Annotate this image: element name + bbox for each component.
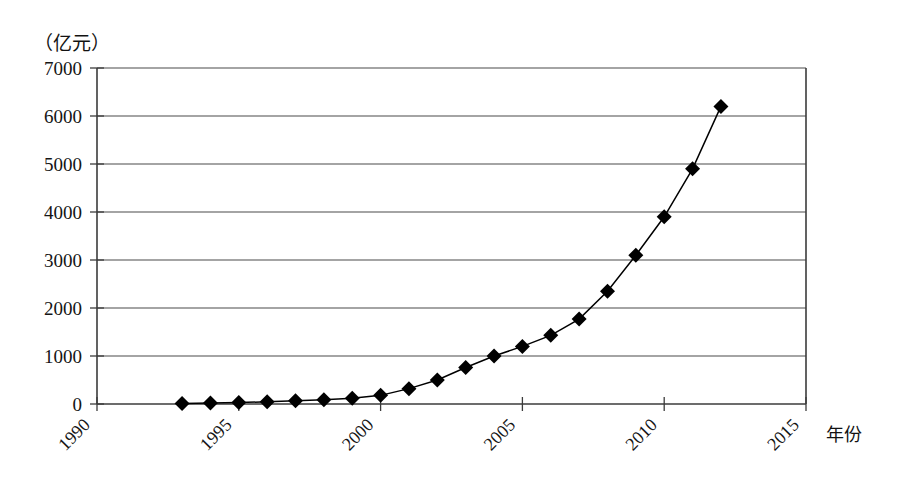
line-chart: （亿元） 01000200030004000500060007000 19901…	[0, 0, 900, 490]
x-tick-label: 2015	[763, 415, 803, 455]
y-tick-label: 2000	[44, 298, 82, 319]
data-point-marker	[515, 339, 530, 354]
data-point-marker	[373, 388, 388, 403]
data-point-marker	[231, 395, 246, 410]
data-point-marker	[713, 99, 728, 114]
y-tick-label: 4000	[44, 202, 82, 223]
x-tick-label: 1990	[54, 415, 94, 455]
x-tick-label: 2010	[621, 415, 661, 455]
x-tick-label: 1995	[196, 415, 236, 455]
y-tick-label: 1000	[44, 346, 82, 367]
y-tick-label: 6000	[44, 106, 82, 127]
y-tick-label: 0	[73, 394, 83, 415]
data-point-marker	[487, 349, 502, 364]
data-point-marker	[316, 392, 331, 407]
y-tick-group: 01000200030004000500060007000	[44, 58, 104, 415]
x-tick-label: 2005	[480, 415, 520, 455]
data-point-marker	[430, 373, 445, 388]
data-point-marker	[458, 360, 473, 375]
y-tick-label: 5000	[44, 154, 82, 175]
x-axis-title: 年份	[826, 424, 862, 445]
data-point-marker	[543, 328, 558, 343]
y-tick-label: 7000	[44, 58, 82, 79]
data-point-marker	[175, 396, 190, 411]
gridlines	[97, 68, 806, 356]
data-series-markers	[175, 99, 729, 411]
data-point-marker	[260, 394, 275, 409]
y-tick-label: 3000	[44, 250, 82, 271]
chart-canvas: 01000200030004000500060007000 1990199520…	[0, 0, 900, 490]
data-point-marker	[288, 393, 303, 408]
x-tick-label: 2000	[338, 415, 378, 455]
data-point-marker	[203, 396, 218, 411]
data-point-marker	[401, 381, 416, 396]
x-tick-group: 199019952000200520102015	[54, 397, 806, 454]
